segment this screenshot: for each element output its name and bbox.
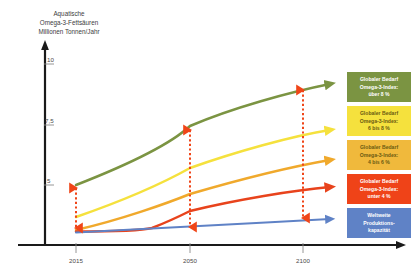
legend-amber-line-1: Globaler Bedarf — [360, 144, 399, 150]
gap-annotations — [76, 90, 303, 228]
chart-title-line-2: Omega-3-Fettsäuren — [40, 19, 99, 27]
x-axis-ticks: 2015 2050 2100 — [69, 243, 310, 264]
omega3-line-chart: Aquatische Omega-3-Fettsäuren Millionen … — [0, 0, 417, 274]
legend-item-green[interactable]: Globaler Bedarf Omega-3-Index: über 8 % — [347, 72, 411, 102]
y-tick-label-10: 10 — [47, 56, 54, 63]
legend-red-line-3: unter 4 % — [368, 193, 391, 199]
legend: Globaler Bedarf Omega-3-Index: über 8 % … — [347, 72, 411, 238]
series-line-global-demand-over-8 — [76, 84, 330, 185]
legend-blue-line-1: Weltweite — [367, 212, 391, 218]
data-series-group — [76, 84, 330, 233]
x-tick-label-2100: 2100 — [296, 257, 310, 264]
legend-green-line-2: Omega-3-Index: — [360, 84, 399, 90]
legend-yellow-line-2: Omega-3-Index: — [360, 118, 399, 124]
chart-title-line-3: Millionen Tonnen/Jahr — [38, 28, 99, 35]
legend-yellow-line-1: Globaler Bedarf — [360, 110, 399, 116]
legend-green-line-1: Globaler Bedarf — [360, 76, 399, 82]
legend-red-line-1: Globaler Bedarf — [360, 178, 399, 184]
legend-amber-line-2: Omega-3-Index: — [360, 152, 399, 158]
legend-item-blue[interactable]: Weltweite Produktions- kapazität — [347, 208, 411, 238]
x-tick-label-2015: 2015 — [69, 257, 83, 264]
legend-amber-line-3: 4 bis 6 % — [368, 159, 390, 165]
legend-item-amber[interactable]: Globaler Bedarf Omega-3-Index: 4 bis 6 % — [347, 140, 411, 170]
chart-container: Aquatische Omega-3-Fettsäuren Millionen … — [0, 0, 417, 274]
legend-yellow-line-3: 6 bis 8 % — [368, 125, 390, 131]
y-tick-label-5: 5 — [47, 177, 51, 184]
y-axis-arrowhead — [41, 40, 49, 50]
y-tick-label-75: 7,5 — [45, 117, 54, 124]
x-axis-arrowhead — [396, 241, 406, 249]
legend-blue-line-3: kapazität — [368, 227, 390, 233]
chart-title-line-1: Aquatische — [53, 10, 85, 18]
chart-title: Aquatische Omega-3-Fettsäuren Millionen … — [38, 10, 99, 35]
legend-blue-line-2: Produktions- — [363, 220, 395, 226]
legend-item-red[interactable]: Globaler Bedarf Omega-3-Index: unter 4 % — [347, 174, 411, 204]
series-line-global-demand-6-to-8 — [76, 130, 330, 217]
legend-red-line-2: Omega-3-Index: — [360, 186, 399, 192]
legend-green-line-3: über 8 % — [368, 91, 390, 97]
legend-item-yellow[interactable]: Globaler Bedarf Omega-3-Index: 6 bis 8 % — [347, 106, 411, 136]
x-tick-label-2050: 2050 — [183, 257, 197, 264]
